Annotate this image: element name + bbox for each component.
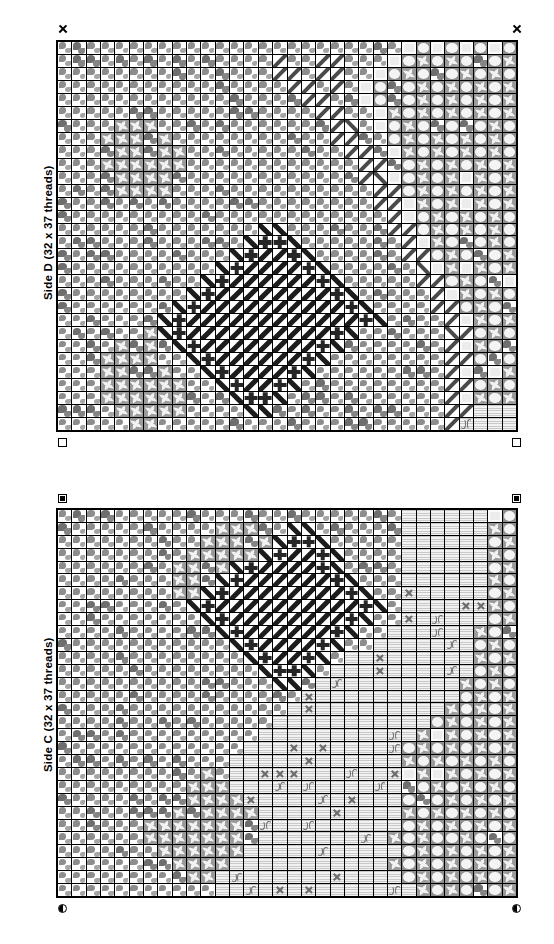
stitch-cell: [187, 133, 200, 145]
stitch-cell: [417, 703, 430, 715]
stitch-cell: [115, 510, 128, 522]
stitch-cell: [87, 691, 100, 703]
stitch-cell: [130, 807, 143, 819]
stitch-cell: [474, 845, 487, 857]
stitch-cell: [503, 832, 516, 844]
stitch-cell: [101, 665, 114, 677]
stitch-cell: [144, 340, 157, 352]
stitch-cell: [288, 198, 301, 210]
stitch-cell: [173, 807, 186, 819]
stitch-cell: [388, 146, 401, 158]
stitch-cell: [345, 820, 358, 832]
stitch-cell: [388, 716, 401, 728]
stitch-cell: [158, 288, 171, 300]
stitch-cell: [158, 107, 171, 119]
stitch-cell: [431, 691, 444, 703]
stitch-cell: [72, 794, 85, 806]
stitch-cell: [402, 820, 415, 832]
stitch-cell: [388, 327, 401, 339]
stitch-cell: [259, 678, 272, 690]
stitch-cell: [158, 587, 171, 599]
stitch-cell: [388, 536, 401, 548]
stitch-cell: [144, 159, 157, 171]
stitch-cell: [58, 626, 71, 638]
stitch-cell: [101, 146, 114, 158]
stitch-cell: [374, 549, 387, 561]
stitch-cell: [488, 768, 501, 780]
stitch-cell: [130, 405, 143, 417]
stitch-cell: [130, 198, 143, 210]
stitch-cell: [144, 392, 157, 404]
stitch-cell: [173, 523, 186, 535]
stitch-cell: [173, 858, 186, 870]
stitch-cell: [58, 314, 71, 326]
stitch-cell: [130, 587, 143, 599]
stitch-cell: [58, 159, 71, 171]
stitch-cell: [316, 510, 329, 522]
stitch-cell: [130, 781, 143, 793]
stitch-cell: [331, 794, 344, 806]
stitch-cell: [273, 55, 286, 67]
stitch-cell: [72, 107, 85, 119]
stitch-cell: [158, 211, 171, 223]
stitch-cell: [244, 549, 257, 561]
stitch-cell: [259, 729, 272, 741]
stitch-cell: [58, 211, 71, 223]
stitch-cell: [345, 510, 358, 522]
stitch-cell: [359, 42, 372, 54]
stitch-cell: [359, 146, 372, 158]
stitch-cell: [273, 68, 286, 80]
stitch-cell: [101, 81, 114, 93]
stitch-cell: [216, 703, 229, 715]
stitch-cell: [474, 600, 487, 612]
stitch-cell: [216, 626, 229, 638]
stitch-cell: [244, 211, 257, 223]
stitch-cell: [302, 523, 315, 535]
stitch-cell: [417, 327, 430, 339]
stitch-cell: [316, 198, 329, 210]
stitch-cell: [101, 288, 114, 300]
stitch-cell: [58, 755, 71, 767]
stitch-cell: [187, 107, 200, 119]
stitch-cell: [460, 107, 473, 119]
corner-marker-half-circle-bottom-left-c: [58, 904, 67, 913]
stitch-cell: [402, 562, 415, 574]
stitch-cell: [201, 691, 214, 703]
stitch-cell: [273, 600, 286, 612]
stitch-cell: [216, 549, 229, 561]
stitch-cell: [230, 871, 243, 883]
stitch-cell: [302, 262, 315, 274]
stitch-cell: [58, 639, 71, 651]
stitch-cell: [101, 820, 114, 832]
stitch-cell: [158, 807, 171, 819]
stitch-cell: [431, 392, 444, 404]
stitch-cell: [359, 510, 372, 522]
stitch-cell: [431, 639, 444, 651]
stitch-cell: [187, 626, 200, 638]
stitch-cell: [273, 379, 286, 391]
stitch-cell: [58, 42, 71, 54]
stitch-cell: [388, 353, 401, 365]
stitch-cell: [331, 211, 344, 223]
stitch-cell: [187, 42, 200, 54]
stitch-cell: [72, 549, 85, 561]
stitch-cell: [359, 549, 372, 561]
stitch-cell: [115, 198, 128, 210]
stitch-cell: [402, 327, 415, 339]
stitch-cell: [302, 510, 315, 522]
stitch-cell: [201, 665, 214, 677]
stitch-cell: [460, 198, 473, 210]
stitch-cell: [503, 742, 516, 754]
stitch-cell: [417, 523, 430, 535]
stitch-cell: [115, 678, 128, 690]
stitch-cell: [331, 81, 344, 93]
stitch-cell: [101, 858, 114, 870]
stitch-cell: [388, 858, 401, 870]
stitch-cell: [359, 755, 372, 767]
stitch-cell: [445, 755, 458, 767]
stitch-cell: [72, 716, 85, 728]
stitch-cell: [144, 301, 157, 313]
stitch-cell: [244, 159, 257, 171]
stitch-cell: [345, 81, 358, 93]
stitch-cell: [316, 392, 329, 404]
